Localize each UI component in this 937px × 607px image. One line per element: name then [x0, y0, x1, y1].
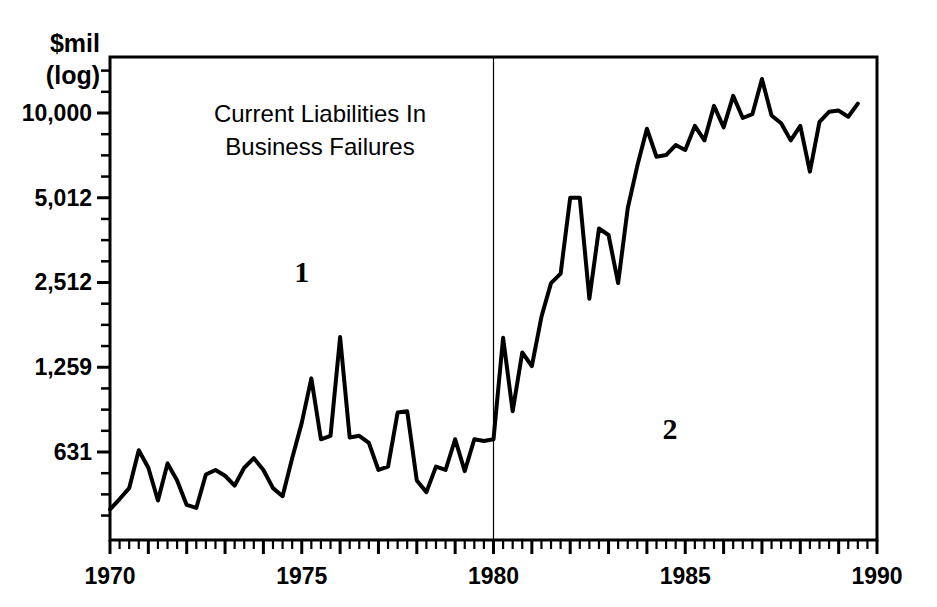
x-tick-label: 1985 [660, 563, 711, 589]
y-axis: 10,0005,0122,5121,259631 [22, 71, 110, 516]
series-line [110, 79, 858, 510]
region-label-1: 1 [294, 255, 309, 288]
chart-page: $mil (log) 10,0005,0122,5121,259631 1970… [0, 0, 937, 607]
x-tick-label: 1980 [468, 563, 519, 589]
x-tick-label: 1975 [276, 563, 327, 589]
x-tick-label: 1970 [84, 563, 135, 589]
y-tick-label: 1,259 [34, 354, 92, 380]
x-axis: 19701975198019851990 [84, 540, 902, 589]
line-chart: $mil (log) 10,0005,0122,5121,259631 1970… [0, 0, 937, 607]
y-axis-unit-label-line2: (log) [46, 61, 100, 89]
data-series [110, 79, 858, 510]
chart-title-line-2: Business Failures [225, 133, 414, 160]
y-axis-unit-label-line1: $mil [50, 29, 100, 57]
y-tick-label: 2,512 [34, 269, 92, 295]
y-tick-label: 10,000 [22, 100, 92, 126]
chart-title-line-1: Current Liabilities In [214, 100, 426, 127]
y-tick-label: 631 [54, 439, 93, 465]
x-tick-label: 1990 [851, 563, 902, 589]
region-label-2: 2 [662, 412, 677, 445]
y-tick-label: 5,012 [34, 185, 92, 211]
